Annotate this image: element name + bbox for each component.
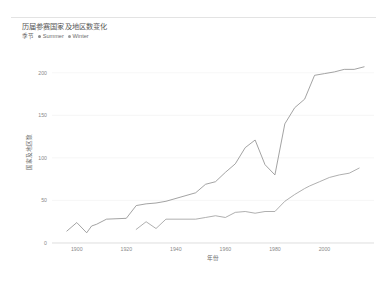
y-tick-label: 150 <box>38 112 47 118</box>
x-axis-ticks: 190019201940196019802000 <box>52 243 374 252</box>
x-tick-label: 1980 <box>269 246 281 252</box>
x-tick-label: 1920 <box>121 246 133 252</box>
line-chart: 050100150200 190019201940196019802000 年份… <box>0 0 387 283</box>
y-tick-label: 100 <box>38 155 47 161</box>
series-line-winter[interactable] <box>136 168 359 229</box>
x-tick-label: 1900 <box>71 246 83 252</box>
plot-area: 050100150200 190019201940196019802000 年份… <box>0 0 387 283</box>
x-axis-title: 年份 <box>207 254 219 262</box>
x-tick-label: 1960 <box>220 246 232 252</box>
series-lines <box>67 67 364 233</box>
y-tick-label: 200 <box>38 70 47 76</box>
y-tick-label: 0 <box>44 240 47 246</box>
y-axis-ticks: 050100150200 <box>38 70 47 246</box>
y-axis-title: 国家及地区数 <box>25 134 33 170</box>
y-tick-label: 50 <box>41 197 47 203</box>
x-tick-label: 2000 <box>319 246 331 252</box>
gridlines <box>52 73 374 243</box>
x-tick-label: 1940 <box>170 246 182 252</box>
chart-screen: 历届参赛国家及地区数变化 季节 Summer Winter 0501001502… <box>0 0 387 283</box>
series-line-summer[interactable] <box>67 67 364 233</box>
